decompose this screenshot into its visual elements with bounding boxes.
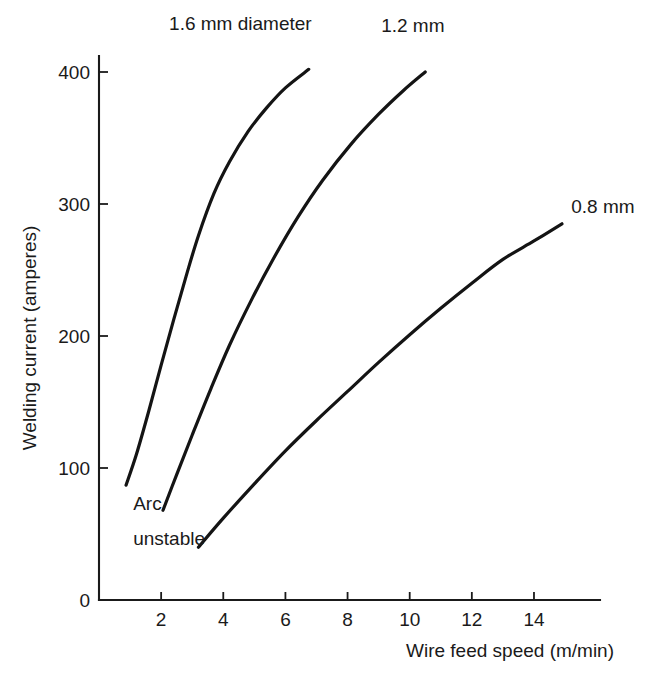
x-tick-label: 14: [523, 609, 545, 630]
y-tick-label: 300: [58, 194, 90, 215]
y-tick-label: 0: [79, 590, 90, 611]
y-tick-label: 200: [58, 326, 90, 347]
x-tick-label: 2: [156, 609, 167, 630]
curve-series-3: [198, 224, 562, 547]
x-axis-ticks: 2468101214: [156, 592, 545, 630]
x-tick-label: 10: [399, 609, 420, 630]
series-labels: 1.6 mm diameter1.2 mm0.8 mm: [169, 13, 635, 217]
x-tick-label: 6: [280, 609, 291, 630]
x-axis-title: Wire feed speed (m/min): [406, 640, 614, 661]
y-axis-ticks: 0100200300400: [58, 62, 108, 611]
y-tick-label: 400: [58, 62, 90, 83]
series-label-2: 1.2 mm: [381, 15, 444, 36]
y-axis-title: Welding current (amperes): [19, 226, 40, 451]
annotation-line-2: unstable: [133, 528, 205, 549]
chart-svg: 0100200300400 2468101214 1.6 mm diameter…: [0, 0, 664, 694]
x-tick-label: 12: [461, 609, 482, 630]
y-tick-label: 100: [58, 458, 90, 479]
curve-series-1: [126, 69, 309, 485]
curve-series-2: [163, 72, 425, 510]
chart-annotations: Arcunstable: [133, 493, 205, 548]
annotation-line-1: Arc: [133, 493, 162, 514]
series-label-3: 0.8 mm: [571, 196, 634, 217]
x-tick-label: 4: [218, 609, 229, 630]
x-tick-label: 8: [342, 609, 353, 630]
chart-curves: [126, 69, 562, 547]
series-label-1: 1.6 mm diameter: [169, 13, 312, 34]
chart-figure: 0100200300400 2468101214 1.6 mm diameter…: [0, 0, 664, 694]
